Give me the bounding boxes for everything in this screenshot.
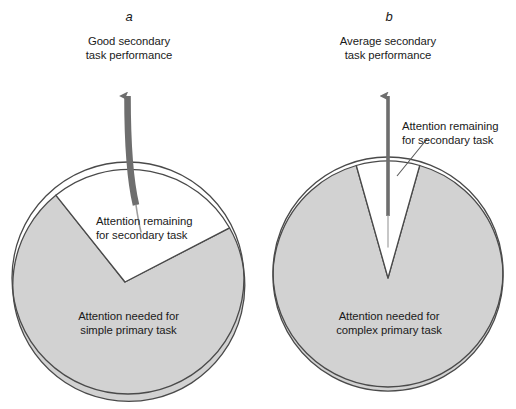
primary-label-a: Attention needed for simple primary task [51, 310, 206, 338]
wedge-label-a-line2: for secondary task [96, 229, 244, 243]
primary-label-b: Attention needed for complex primary tas… [308, 310, 470, 338]
figure-container: a b Good secondary task performance Atte… [0, 0, 516, 409]
arrow-label-b-line2: task performance [305, 49, 471, 63]
wedge-label-a: Attention remaining for secondary task [96, 215, 244, 243]
panel-letter-a: a [114, 9, 144, 24]
wedge-label-b-line2: for secondary task [402, 134, 514, 148]
primary-label-b-line1: Attention needed for [308, 310, 470, 324]
primary-label-a-line2: simple primary task [51, 324, 206, 338]
primary-label-a-line1: Attention needed for [51, 310, 206, 324]
primary-label-b-line2: complex primary task [308, 324, 470, 338]
wedge-label-b-line1: Attention remaining [402, 120, 514, 134]
arrow-label-b: Average secondary task performance [305, 35, 471, 63]
wedge-label-b: Attention remaining for secondary task [402, 120, 514, 148]
arrow-label-b-line1: Average secondary [305, 35, 471, 49]
arrow-label-a-line2: task performance [48, 49, 210, 63]
arrow-label-a: Good secondary task performance [48, 35, 210, 63]
panel-letter-b: b [374, 9, 404, 24]
wedge-label-a-line1: Attention remaining [96, 215, 244, 229]
pie-chart-a [12, 162, 245, 401]
arrow-label-a-line1: Good secondary [48, 35, 210, 49]
